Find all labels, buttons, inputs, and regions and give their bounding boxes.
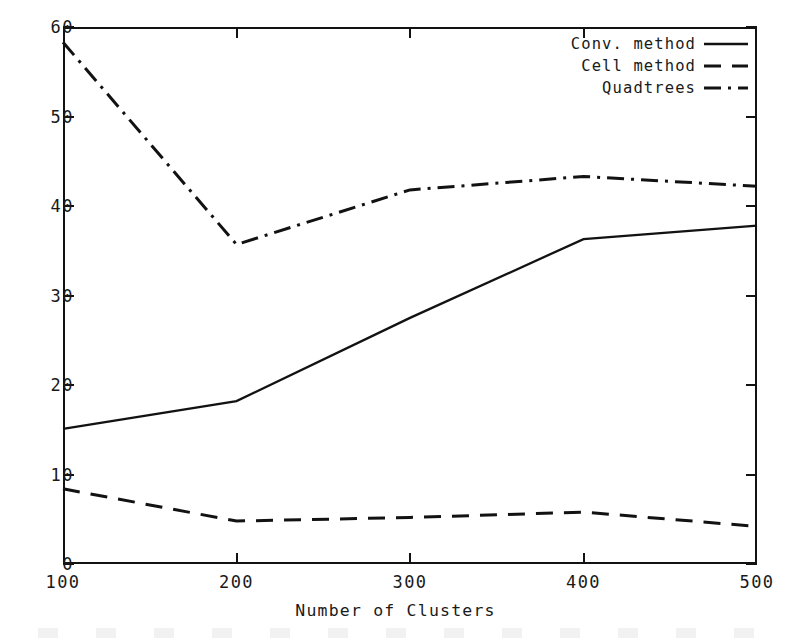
x-axis-title: Number of Clusters	[0, 601, 791, 620]
x-axis-tick-label: 300	[392, 574, 427, 591]
legend-label: Conv. method	[571, 33, 702, 55]
x-axis-tick-bottom	[409, 553, 411, 564]
legend-item: Quadtrees	[525, 77, 750, 99]
x-axis-tick-top	[409, 27, 411, 38]
x-axis-tick-bottom	[583, 553, 585, 564]
x-axis-tick-top	[236, 27, 238, 38]
plot-frame	[63, 27, 757, 564]
y-axis-tick-right	[746, 384, 757, 386]
y-axis-tick-label: 0	[62, 556, 74, 573]
y-axis-tick-label: 60	[51, 19, 74, 36]
y-axis-tick-right	[746, 116, 757, 118]
scan-artifact-band	[0, 628, 791, 638]
legend-item: Conv. method	[525, 33, 750, 55]
legend-item: Cell method	[525, 55, 750, 77]
legend-label: Cell method	[581, 55, 702, 77]
y-axis-tick-right	[746, 295, 757, 297]
y-axis-tick-right	[746, 26, 757, 28]
y-axis-tick-right	[746, 563, 757, 565]
y-axis-tick-label: 10	[51, 467, 74, 484]
y-axis-tick-label: 30	[51, 288, 74, 305]
x-axis-tick-label: 200	[219, 574, 254, 591]
y-axis-tick-right	[746, 205, 757, 207]
x-axis-tick-label: 100	[45, 574, 80, 591]
y-axis-tick-label: 50	[51, 109, 74, 126]
x-axis-tick-bottom	[236, 553, 238, 564]
y-axis-tick-right	[746, 474, 757, 476]
legend-line-sample	[702, 81, 750, 95]
x-axis-tick-label: 400	[566, 574, 601, 591]
legend-label: Quadtrees	[602, 77, 702, 99]
chart-figure: 0102030405060 100200300400500 Number of …	[0, 0, 791, 638]
chart-legend: Conv. methodCell methodQuadtrees	[525, 33, 750, 99]
legend-line-sample	[702, 37, 750, 51]
legend-line-sample	[702, 59, 750, 73]
x-axis-tick-label: 500	[739, 574, 774, 591]
y-axis-tick-label: 40	[51, 198, 74, 215]
y-axis-tick-label: 20	[51, 377, 74, 394]
